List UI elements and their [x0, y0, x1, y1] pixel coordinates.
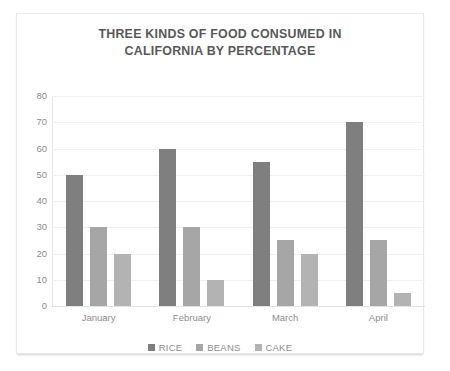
- bar-cake-january[interactable]: [114, 254, 131, 307]
- y-axis-tick-labels: 80706050403020100: [17, 96, 47, 307]
- x-axis-tick-label: January: [82, 312, 116, 323]
- bar-beans-february[interactable]: [183, 227, 200, 306]
- gridline: [52, 96, 425, 97]
- x-axis-tick-label: April: [369, 312, 388, 323]
- legend-label: RICE: [159, 342, 183, 353]
- y-axis-tick-label: 80: [21, 91, 47, 101]
- bar-beans-april[interactable]: [370, 240, 387, 306]
- gridline: [52, 306, 425, 307]
- y-axis-tick-label: 40: [21, 196, 47, 206]
- bar-cake-april[interactable]: [394, 293, 411, 306]
- bar-cake-march[interactable]: [301, 254, 318, 307]
- legend-item-beans[interactable]: BEANS: [196, 342, 240, 353]
- plot-area: [52, 96, 425, 306]
- legend-label: BEANS: [207, 342, 240, 353]
- chart-title: THREE KINDS OF FOOD CONSUMED IN CALIFORN…: [17, 26, 423, 60]
- y-axis-tick-label: 50: [21, 170, 47, 180]
- bar-beans-march[interactable]: [277, 240, 294, 306]
- bar-rice-march[interactable]: [253, 162, 270, 306]
- bar-rice-april[interactable]: [346, 122, 363, 306]
- y-axis-tick-label: 20: [21, 249, 47, 259]
- y-axis-tick-label: 10: [21, 275, 47, 285]
- chart-title-line-2: CALIFORNIA BY PERCENTAGE: [17, 43, 423, 60]
- legend-label: CAKE: [266, 342, 293, 353]
- bar-beans-january[interactable]: [90, 227, 107, 306]
- x-axis-tick-label: February: [173, 312, 211, 323]
- legend-item-rice[interactable]: RICE: [148, 342, 183, 353]
- chart-title-line-1: THREE KINDS OF FOOD CONSUMED IN: [17, 26, 423, 43]
- y-axis-tick-label: 0: [21, 301, 47, 311]
- gridline: [52, 122, 425, 123]
- gridline: [52, 175, 425, 176]
- gridline: [52, 149, 425, 150]
- legend-swatch-icon: [255, 344, 262, 351]
- gridline: [52, 201, 425, 202]
- bar-rice-february[interactable]: [159, 149, 176, 307]
- y-axis-tick-label: 60: [21, 144, 47, 154]
- chart-card: THREE KINDS OF FOOD CONSUMED IN CALIFORN…: [16, 13, 424, 354]
- y-axis-tick-label: 70: [21, 118, 47, 128]
- bar-rice-january[interactable]: [66, 175, 83, 306]
- gridline: [52, 227, 425, 228]
- legend-item-cake[interactable]: CAKE: [255, 342, 293, 353]
- y-axis-tick-label: 30: [21, 223, 47, 233]
- legend-swatch-icon: [196, 344, 203, 351]
- legend-swatch-icon: [148, 344, 155, 351]
- chart-legend: RICEBEANSCAKE: [17, 342, 423, 353]
- x-axis-tick-label: March: [272, 312, 298, 323]
- bar-cake-february[interactable]: [207, 280, 224, 306]
